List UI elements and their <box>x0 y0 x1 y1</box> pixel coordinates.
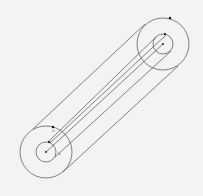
axis-line <box>46 44 163 152</box>
inner-edge-top <box>48 37 156 142</box>
coax-cylinder-diagram <box>0 0 203 196</box>
label-b: b <box>58 151 61 156</box>
near-center-point <box>45 151 47 153</box>
inner-edge-bottom <box>55 51 171 157</box>
far-center-point <box>162 43 164 45</box>
label-a: a <box>52 128 54 133</box>
outer-edge-bottom <box>63 66 178 172</box>
near-inner-point <box>48 141 50 143</box>
far-outer-point <box>169 17 171 19</box>
diagram-canvas: a b <box>0 0 203 196</box>
far-inner-point <box>164 33 166 35</box>
radius-line <box>50 35 166 143</box>
